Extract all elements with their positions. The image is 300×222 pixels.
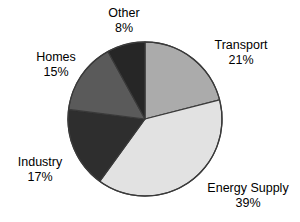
pie-label-other-name: Other — [98, 6, 150, 21]
pie-label-homes-value: 15% — [28, 65, 84, 80]
pie-label-energy: Energy Supply 39% — [200, 181, 296, 211]
pie-label-energy-value: 39% — [200, 196, 296, 211]
pie-label-energy-name: Energy Supply — [200, 181, 296, 196]
pie-label-other-value: 8% — [98, 21, 150, 36]
pie-label-transport: Transport 21% — [201, 38, 281, 68]
pie-label-other: Other 8% — [98, 6, 150, 36]
pie-chart-figure: Other 8% Transport 21% Homes 15% Industr… — [0, 0, 300, 222]
pie-label-homes: Homes 15% — [28, 50, 84, 80]
pie-label-industry-name: Industry — [8, 155, 72, 170]
pie-label-transport-name: Transport — [201, 38, 281, 53]
pie-label-industry: Industry 17% — [8, 155, 72, 185]
pie-label-industry-value: 17% — [8, 170, 72, 185]
pie-label-homes-name: Homes — [28, 50, 84, 65]
pie-slices-group — [68, 42, 222, 196]
pie-label-transport-value: 21% — [201, 53, 281, 68]
